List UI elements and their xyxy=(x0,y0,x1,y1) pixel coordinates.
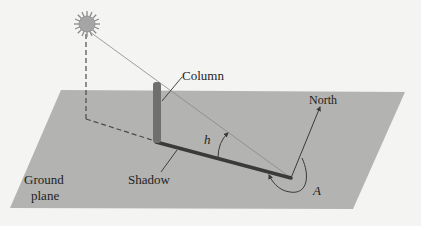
north-label: North xyxy=(309,93,337,107)
ground-plane-label-line1: Ground xyxy=(24,172,64,187)
sun-icon xyxy=(74,11,100,37)
ground-plane-label-line2: plane xyxy=(31,188,59,203)
altitude-angle-label: h xyxy=(204,132,211,147)
shadow-label: Shadow xyxy=(128,172,171,187)
column-label: Column xyxy=(182,68,224,83)
azimuth-angle-label: A xyxy=(312,183,321,198)
ground-plane xyxy=(10,90,405,209)
column xyxy=(153,82,161,143)
sun-position-diagram: Column North h A Shadow Ground plane xyxy=(0,0,421,226)
